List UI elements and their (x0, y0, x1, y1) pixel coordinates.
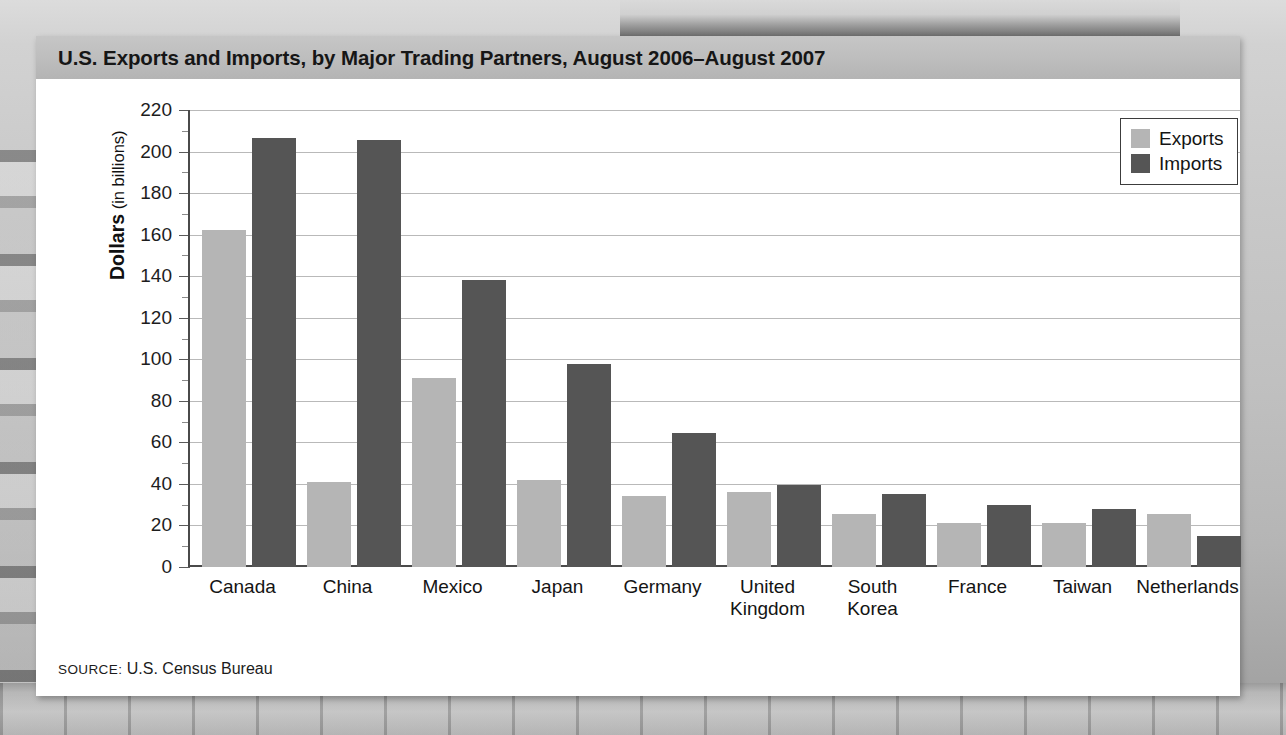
bar-imports-canada[interactable] (252, 138, 296, 567)
y-tick-major (179, 567, 190, 568)
bar-exports-germany[interactable] (622, 496, 666, 567)
legend-swatch-exports (1131, 129, 1150, 148)
bar-group (937, 110, 1031, 567)
y-axis-title-bold: Dollars (106, 214, 128, 280)
bar-imports-united-kingdom[interactable] (777, 485, 821, 567)
y-tick-label: 20 (126, 514, 172, 536)
bar-group (412, 110, 506, 567)
source-note: SOURCE: U.S. Census Bureau (58, 660, 273, 678)
chart-title-bar: U.S. Exports and Imports, by Major Tradi… (36, 36, 1240, 79)
bar-imports-china[interactable] (357, 140, 401, 567)
source-label: SOURCE: (58, 662, 122, 677)
y-tick-label: 40 (126, 473, 172, 495)
y-tick-label: 60 (126, 431, 172, 453)
source-text: U.S. Census Bureau (122, 660, 272, 677)
bar-group (727, 110, 821, 567)
legend-item-exports[interactable]: Exports (1131, 126, 1223, 151)
bar-exports-south-korea[interactable] (832, 514, 876, 567)
bar-exports-netherlands[interactable] (1147, 514, 1191, 567)
y-tick-label: 180 (126, 182, 172, 204)
bar-imports-netherlands[interactable] (1197, 536, 1241, 567)
bar-exports-mexico[interactable] (412, 378, 456, 567)
chart-panel: U.S. Exports and Imports, by Major Tradi… (36, 36, 1240, 696)
y-axis-title-unit: (in billions) (109, 130, 127, 213)
y-tick-label: 200 (126, 141, 172, 163)
y-tick-label: 0 (126, 556, 172, 578)
bar-imports-mexico[interactable] (462, 280, 506, 567)
y-tick-label: 120 (126, 307, 172, 329)
bar-imports-taiwan[interactable] (1092, 509, 1136, 567)
x-axis-label-line: Korea (798, 598, 948, 620)
bar-exports-taiwan[interactable] (1042, 523, 1086, 567)
bar-exports-united-kingdom[interactable] (727, 492, 771, 567)
x-axis-label-netherlands: Netherlands (1113, 576, 1263, 598)
bar-exports-japan[interactable] (517, 480, 561, 567)
bar-group (517, 110, 611, 567)
legend-label-imports: Imports (1159, 153, 1222, 175)
y-tick-label: 100 (126, 348, 172, 370)
bar-imports-south-korea[interactable] (882, 494, 926, 567)
bar-imports-germany[interactable] (672, 433, 716, 567)
bar-group (202, 110, 296, 567)
y-tick-label: 80 (126, 390, 172, 412)
bar-group (832, 110, 926, 567)
y-tick-label: 220 (126, 99, 172, 121)
chart-title: U.S. Exports and Imports, by Major Tradi… (36, 46, 825, 70)
bar-group (622, 110, 716, 567)
legend-swatch-imports (1131, 154, 1150, 173)
bar-imports-japan[interactable] (567, 364, 611, 567)
background-ship (620, 0, 1180, 36)
bar-group (307, 110, 401, 567)
chart-legend: ExportsImports (1120, 118, 1238, 185)
plot-area: Dollars (in billions) 220200180160140120… (152, 110, 1240, 603)
bar-exports-china[interactable] (307, 482, 351, 567)
y-tick-label: 140 (126, 265, 172, 287)
legend-item-imports[interactable]: Imports (1131, 151, 1223, 176)
legend-label-exports: Exports (1159, 128, 1223, 150)
x-axis-label-line: Netherlands (1113, 576, 1263, 598)
bars-layer (190, 110, 1240, 567)
bar-imports-france[interactable] (987, 505, 1031, 567)
bar-exports-canada[interactable] (202, 230, 246, 567)
y-tick-label: 160 (126, 224, 172, 246)
bar-exports-france[interactable] (937, 523, 981, 567)
